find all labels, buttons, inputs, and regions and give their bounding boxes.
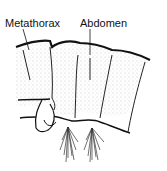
metathorax-label: Metathorax [5, 18, 60, 29]
abdomen-label: Abdomen [80, 18, 127, 29]
diagram: Metathorax Abdomen [0, 0, 167, 171]
gill-tufts [60, 127, 104, 162]
